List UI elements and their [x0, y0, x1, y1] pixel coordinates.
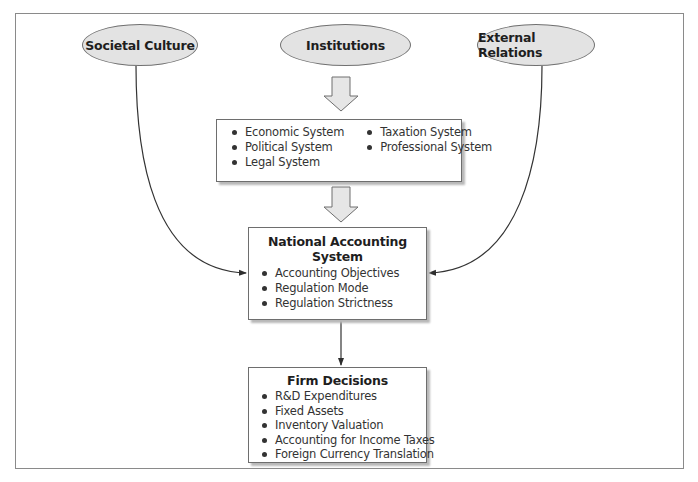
list-item: Regulation Mode	[259, 281, 426, 296]
institutions-list-right: Taxation System Professional System	[364, 125, 492, 181]
node-label: Societal Culture	[85, 38, 194, 53]
list-item: R&D Expenditures	[259, 389, 426, 404]
nas-list: Accounting Objectives Regulation Mode Re…	[259, 266, 426, 311]
list-item: Accounting for Income Taxes	[259, 433, 426, 448]
block-arrow-down-icon	[324, 77, 358, 111]
list-item: Taxation System	[364, 125, 492, 140]
list-item: Fixed Assets	[259, 404, 426, 419]
institutions-box: Economic System Political System Legal S…	[216, 119, 462, 182]
external-relations-node: External Relations	[477, 24, 595, 66]
list-item: Inventory Valuation	[259, 418, 426, 433]
list-item: Legal System	[229, 155, 344, 170]
list-item: Professional System	[364, 140, 492, 155]
firm-decisions-box: Firm Decisions R&D Expenditures Fixed As…	[248, 367, 427, 463]
list-item: Political System	[229, 140, 344, 155]
block-arrow-down-icon	[324, 187, 358, 222]
societal-culture-node: Societal Culture	[82, 24, 198, 66]
node-label: Institutions	[306, 38, 385, 53]
box-title: National Accounting System	[249, 234, 426, 264]
institutions-node: Institutions	[280, 24, 411, 66]
institutions-list-left: Economic System Political System Legal S…	[229, 125, 344, 181]
firm-decisions-list: R&D Expenditures Fixed Assets Inventory …	[259, 389, 426, 462]
list-item: Accounting Objectives	[259, 266, 426, 281]
list-item: Regulation Strictness	[259, 296, 426, 311]
list-item: Foreign Currency Translation	[259, 447, 426, 462]
list-item: Economic System	[229, 125, 344, 140]
box-title: Firm Decisions	[249, 373, 426, 388]
national-accounting-system-box: National Accounting System Accounting Ob…	[248, 227, 427, 320]
node-label: External Relations	[478, 30, 594, 60]
